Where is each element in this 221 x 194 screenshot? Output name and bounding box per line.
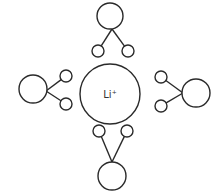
ligand-body-circle [97, 3, 123, 29]
ligand-body-circle [182, 79, 210, 107]
bond-line [101, 29, 112, 46]
donor-atom-circle [92, 45, 104, 57]
donor-atom-circle [155, 71, 167, 83]
bond-line [101, 137, 112, 162]
ion-charge: + [112, 88, 117, 95]
donor-atom-circle [121, 125, 133, 137]
donor-atom-circle [93, 125, 105, 137]
ligand-body-circle [19, 75, 47, 103]
donor-atom-circle [60, 98, 72, 110]
donor-atom-circle [155, 100, 167, 112]
ion-symbol: Li [103, 89, 111, 100]
central-ion: Li+ [80, 64, 140, 124]
bond-line [46, 91, 61, 101]
bond-line [112, 136, 124, 162]
ligand-right [155, 71, 210, 112]
ligand-top [92, 3, 134, 57]
bond-line [112, 29, 124, 46]
ligand-bottom [93, 125, 133, 190]
ligand-body-circle [98, 162, 126, 190]
donor-atom-circle [122, 45, 134, 57]
donor-atom-circle [60, 70, 72, 82]
bond-line [166, 81, 183, 93]
bond-line [46, 80, 61, 91]
ligand-left [19, 70, 72, 110]
lithium-coordination-diagram: Li+ [0, 0, 221, 194]
bond-line [166, 93, 183, 103]
